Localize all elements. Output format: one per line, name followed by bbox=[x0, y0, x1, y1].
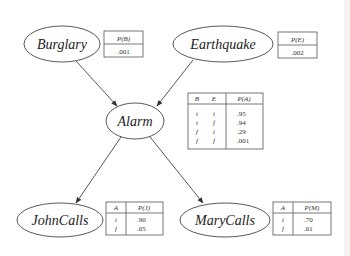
cpt-alarm-r0-p: .95 bbox=[237, 110, 246, 118]
node-alarm: Alarm bbox=[106, 103, 164, 139]
bayes-net-diagram: Burglary Earthquake Alarm JohnCalls Mary… bbox=[0, 0, 350, 256]
edge-alarm-johncalls bbox=[76, 137, 121, 203]
node-johncalls: JohnCalls bbox=[17, 203, 103, 237]
cpt-alarm-r3-p: .001 bbox=[237, 137, 250, 145]
cpt-alarm bbox=[188, 93, 263, 149]
node-label-alarm: Alarm bbox=[117, 114, 153, 129]
edge-burglary-alarm bbox=[76, 61, 117, 106]
cpt-marycalls-r0-p: .70 bbox=[304, 216, 313, 224]
cpt-alarm-header-b: B bbox=[195, 95, 200, 103]
node-label-earthquake: Earthquake bbox=[189, 37, 255, 52]
cpt-alarm-r1-p: .94 bbox=[237, 119, 246, 127]
cpt-marycalls-r1-p: .01 bbox=[304, 225, 313, 233]
cpt-johncalls-header-a: A bbox=[113, 204, 119, 212]
node-earthquake: Earthquake bbox=[173, 26, 273, 62]
node-label-marycalls: MaryCalls bbox=[194, 213, 255, 228]
cpt-earthquake-header: P(E) bbox=[290, 36, 305, 44]
cpt-marycalls-header-pm: P(M) bbox=[304, 204, 320, 212]
cpt-burglary-header: P(B) bbox=[116, 35, 131, 43]
cpt-marycalls-header-a: A bbox=[280, 204, 286, 212]
cpt-johncalls-r0-p: .90 bbox=[137, 216, 146, 224]
cpt-alarm-header-e: E bbox=[211, 95, 217, 103]
cpt-johncalls-header-pj: P(J) bbox=[137, 204, 151, 212]
cpt-alarm-r2-p: .29 bbox=[237, 128, 246, 136]
cpt-burglary-value: .001 bbox=[117, 48, 130, 56]
diagram-canvas: Burglary Earthquake Alarm JohnCalls Mary… bbox=[0, 0, 350, 256]
cpt-earthquake-value: .002 bbox=[291, 49, 304, 57]
node-marycalls: MaryCalls bbox=[180, 203, 270, 237]
node-burglary: Burglary bbox=[24, 26, 100, 62]
cpt-alarm-header-pa: P(A) bbox=[236, 95, 251, 103]
cpt-johncalls-r1-p: .05 bbox=[137, 225, 146, 233]
node-label-johncalls: JohnCalls bbox=[32, 213, 89, 228]
node-label-burglary: Burglary bbox=[37, 37, 88, 52]
